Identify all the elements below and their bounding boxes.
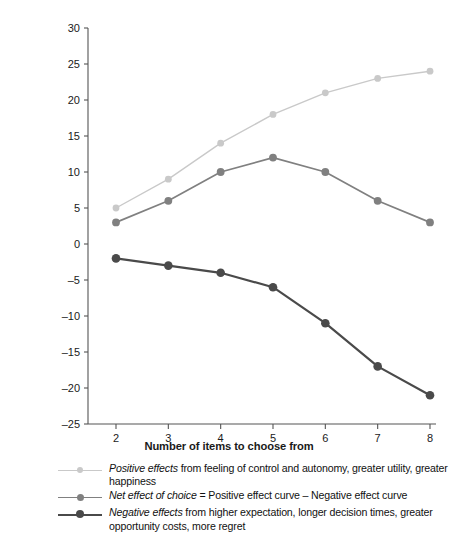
data-point xyxy=(427,68,434,75)
data-point xyxy=(112,254,121,263)
legend-item: Net effect of choice = Positive effect c… xyxy=(0,489,458,505)
data-point xyxy=(269,283,278,292)
data-point xyxy=(374,75,381,82)
data-point xyxy=(321,168,329,176)
series-line xyxy=(116,258,430,395)
data-point xyxy=(374,197,382,205)
svg-text:25: 25 xyxy=(68,58,80,70)
legend-item: Positive effects from feeling of control… xyxy=(0,462,458,488)
svg-text:20: 20 xyxy=(68,94,80,106)
legend-swatch xyxy=(58,507,102,522)
legend-label: Positive effects from feeling of control… xyxy=(109,462,458,488)
data-point xyxy=(322,89,329,96)
chart-legend: Positive effects from feeling of control… xyxy=(0,462,458,534)
data-point xyxy=(269,154,277,162)
series-line xyxy=(116,158,430,223)
legend-label-emphasis: Negative effects xyxy=(109,506,183,518)
svg-text:–25: –25 xyxy=(62,418,80,430)
svg-text:15: 15 xyxy=(68,130,80,142)
svg-text:–10: –10 xyxy=(62,310,80,322)
svg-text:10: 10 xyxy=(68,166,80,178)
data-point xyxy=(216,269,225,278)
svg-text:5: 5 xyxy=(74,202,80,214)
plot-area: –25–20–15–10–50510152025302345678 Cost, … xyxy=(0,0,458,460)
svg-text:–5: –5 xyxy=(68,274,80,286)
legend-label-emphasis: Net effect of choice xyxy=(109,489,197,501)
data-point xyxy=(373,362,382,371)
data-point xyxy=(112,219,120,227)
data-point xyxy=(165,176,172,183)
legend-swatch xyxy=(58,490,102,505)
data-point xyxy=(426,219,434,227)
data-point xyxy=(217,140,224,147)
data-point xyxy=(164,197,172,205)
legend-marker xyxy=(77,467,83,473)
legend-marker xyxy=(77,494,84,501)
chart-figure: –25–20–15–10–50510152025302345678 Cost, … xyxy=(0,0,458,546)
data-series-group xyxy=(112,68,435,400)
legend-label-emphasis: Positive effects xyxy=(109,462,178,474)
data-point xyxy=(270,111,277,118)
svg-text:–20: –20 xyxy=(62,382,80,394)
legend-item: Negative effects from higher expectation… xyxy=(0,506,458,532)
data-point xyxy=(164,261,173,270)
svg-text:0: 0 xyxy=(74,238,80,250)
series-line xyxy=(116,71,430,208)
x-axis-label: Number of items to choose from xyxy=(0,440,458,452)
line-chart-svg: –25–20–15–10–50510152025302345678 xyxy=(0,0,458,460)
data-point xyxy=(321,319,330,328)
data-point xyxy=(217,168,225,176)
legend-label: Negative effects from higher expectation… xyxy=(109,506,458,532)
data-point xyxy=(113,205,120,212)
data-point xyxy=(426,391,435,400)
axes: –25–20–15–10–50510152025302345678 xyxy=(62,22,436,444)
legend-label: Net effect of choice = Positive effect c… xyxy=(109,489,407,502)
legend-swatch xyxy=(58,463,102,478)
legend-marker xyxy=(76,510,84,518)
svg-text:30: 30 xyxy=(68,22,80,34)
svg-text:–15: –15 xyxy=(62,346,80,358)
